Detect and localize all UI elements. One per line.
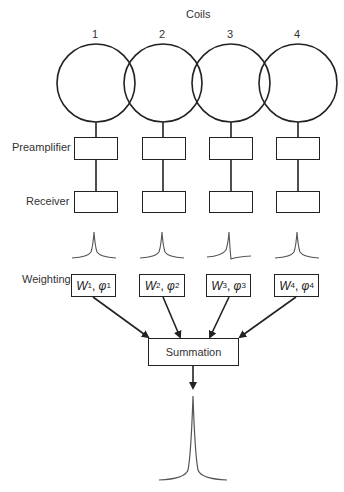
preamplifier-box-2 <box>142 137 186 160</box>
signal-2 <box>140 232 184 258</box>
coils-title: Coils <box>186 8 210 20</box>
receiver-box-3 <box>209 191 253 213</box>
coil-label-3: 3 <box>227 28 233 40</box>
arrow-1 <box>93 297 148 337</box>
receiver-box-2 <box>142 191 186 213</box>
coil-label-2: 2 <box>159 28 165 40</box>
preamplifier-box-4 <box>276 137 320 160</box>
preamplifier-box-1 <box>74 137 118 160</box>
coil-label-1: 1 <box>92 28 98 40</box>
diagram-canvas <box>0 0 344 492</box>
preamplifier-box-3 <box>209 137 253 160</box>
arrow-3 <box>210 297 229 337</box>
receiver-box-4 <box>276 191 320 213</box>
summation-box: Summation <box>148 338 239 366</box>
weighting-box-1: W1, φ1 <box>71 274 116 297</box>
weighting-box-3: W3, φ3 <box>206 274 251 297</box>
weighting-box-2: W2, φ2 <box>139 274 185 297</box>
coil-label-4: 4 <box>294 28 300 40</box>
arrow-2 <box>163 297 180 337</box>
receiver-box-1 <box>74 191 118 213</box>
signal-4 <box>275 232 319 258</box>
output-signal <box>159 396 227 480</box>
preamplifier-label: Preamplifier <box>12 141 71 153</box>
receiver-label: Receiver <box>26 195 69 207</box>
weighting-label: Weighting <box>22 273 71 285</box>
weighting-box-4: W4, φ4 <box>274 274 319 297</box>
arrow-4 <box>240 297 296 337</box>
signal-1 <box>72 232 116 258</box>
signal-3 <box>207 232 251 259</box>
